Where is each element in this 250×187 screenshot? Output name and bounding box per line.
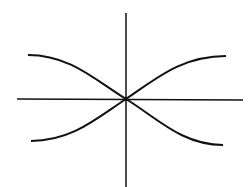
horizontal-axis — [17, 99, 243, 100]
background — [0, 0, 250, 187]
origin-point — [124, 97, 128, 101]
diagram-canvas — [0, 0, 250, 187]
